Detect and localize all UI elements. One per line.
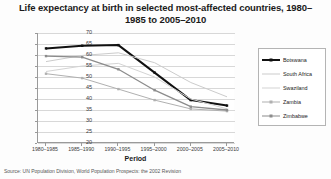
y-tick-label: 35 [68,107,92,113]
y-tick-mark [35,44,37,45]
y-tick-mark [35,110,37,111]
y-tick-mark [35,66,37,67]
y-tick-label: 70 [68,30,92,36]
legend-label: Botswana [281,57,307,63]
legend-item-zimbabwe[interactable]: Zimbabwe [261,109,323,123]
legend-label: South Africa [281,71,312,77]
data-point [117,44,119,46]
x-tick-mark [117,143,118,146]
data-point [45,47,47,49]
x-tick-mark [45,143,46,146]
y-tick-mark [35,121,37,122]
data-point [117,88,119,90]
y-tick-mark [35,99,37,100]
y-tick-label: 55 [68,63,92,69]
y-tick-mark [35,132,37,133]
y-tick-mark [35,55,37,56]
legend-item-zambia[interactable]: Zambia [261,95,323,109]
y-tick-label: 30 [68,118,92,124]
x-tick-label: 1995–2000 [134,146,174,152]
x-tick-mark [154,143,155,146]
x-tick-mark [226,143,227,146]
data-point [117,68,119,70]
x-tick-mark [81,143,82,146]
y-tick-label: 60 [68,52,92,58]
legend-item-south-africa[interactable]: South Africa [261,67,323,81]
y-tick-label: 20 [68,140,92,146]
legend-swatch [261,97,281,107]
y-tick-mark [35,33,37,34]
x-tick-label: 1985–1990 [61,146,101,152]
x-tick-label: 2005–2010 [206,146,246,152]
data-point [153,71,155,73]
legend-swatch [261,83,281,93]
chart-legend: BotswanaSouth AfricaSwazilandZambiaZimba… [258,48,326,126]
source-note: Source: UN Population Division, World Po… [4,168,181,174]
y-tick-label: 45 [68,85,92,91]
data-point [153,99,155,101]
y-tick-label: 25 [68,129,92,135]
y-tick-mark [35,143,37,144]
data-point [45,73,47,75]
legend-swatch [261,111,281,121]
legend-swatch [261,55,281,65]
legend-item-swaziland[interactable]: Swaziland [261,81,323,95]
x-axis-label: Period [37,155,234,162]
x-tick-label: 1980–1985 [25,146,65,152]
data-point [45,55,47,57]
legend-label: Zimbabwe [281,113,308,119]
y-tick-mark [35,77,37,78]
data-point [190,106,192,108]
data-point [153,89,155,91]
y-tick-label: 65 [68,41,92,47]
data-point [226,104,228,106]
data-point [190,108,192,110]
x-tick-label: 2000–2005 [170,146,210,152]
x-tick-mark [190,143,191,146]
plot-area [37,33,234,143]
legend-label: Swaziland [281,85,308,91]
data-point [226,109,228,111]
legend-swatch [261,69,281,79]
legend-label: Zambia [281,99,301,105]
chart-title: Life expectancy at birth in selected mos… [10,2,321,25]
chart-figure: Life expectancy at birth in selected mos… [0,0,331,179]
y-tick-label: 50 [68,74,92,80]
legend-item-botswana[interactable]: Botswana [261,53,323,67]
y-tick-label: 40 [68,96,92,102]
x-tick-label: 1990–1995 [97,146,137,152]
y-tick-mark [35,88,37,89]
